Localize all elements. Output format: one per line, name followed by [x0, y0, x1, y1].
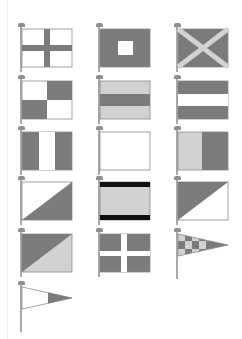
flag-row2-col1 [20, 75, 80, 125]
flag-plain-white [100, 132, 150, 170]
pole-cap [96, 228, 103, 232]
flag-dark-white-dark-stripes [178, 81, 228, 119]
flag-white-dark-tip-pennant [22, 287, 74, 313]
pole-cap [18, 176, 25, 180]
pole-cap [174, 75, 181, 79]
pole-cap [174, 126, 181, 130]
flag-dark-white-cross [100, 234, 150, 272]
flag-row5-col2 [98, 228, 158, 278]
pole-cap [174, 176, 181, 180]
pole-cap [18, 75, 25, 79]
pole-cap [18, 228, 25, 232]
pole-cap [174, 23, 181, 27]
flag-dark-light-saltire [178, 29, 228, 67]
flag-row3-col3 [176, 126, 236, 176]
flag-row3-col2 [98, 126, 158, 176]
pole-cap [96, 75, 103, 79]
flag-row4-col1 [20, 176, 80, 226]
flag-white-dark-cross [22, 29, 72, 67]
pole-cap [18, 126, 25, 130]
flag-row2-col3 [176, 75, 236, 125]
pole-cap [18, 23, 25, 27]
flag-row4-col2 [98, 176, 158, 226]
flag-dark-white-square [100, 29, 150, 67]
pole-cap [96, 23, 103, 27]
flag-row6-col1 [20, 281, 80, 331]
page-edge-line [7, 0, 8, 339]
flag-checkered-pennant [178, 234, 230, 260]
flag-light-dark-light-stripes [100, 81, 150, 119]
flag-row5-col3 [176, 228, 236, 278]
flag-row5-col1 [20, 228, 80, 278]
flag-row1-col1 [20, 23, 80, 73]
flag-diagonal-white-dark [22, 182, 72, 220]
flag-row3-col1 [20, 126, 80, 176]
pole-cap [174, 228, 181, 232]
flag-vertical-tricolor [22, 132, 72, 170]
flag-row4-col3 [176, 176, 236, 226]
flag-quartered [22, 81, 72, 119]
flag-light-dark-halves [178, 132, 228, 170]
pole-cap [96, 176, 103, 180]
pole-cap [96, 126, 103, 130]
flag-row1-col2 [98, 23, 158, 73]
flag-diagonal-dark-light [22, 234, 72, 272]
flag-row2-col2 [98, 75, 158, 125]
flag-black-light-black-bands [100, 182, 150, 220]
pole-cap [18, 281, 25, 285]
flag-row1-col3 [176, 23, 236, 73]
flag-diagonal-dark-white [178, 182, 228, 220]
